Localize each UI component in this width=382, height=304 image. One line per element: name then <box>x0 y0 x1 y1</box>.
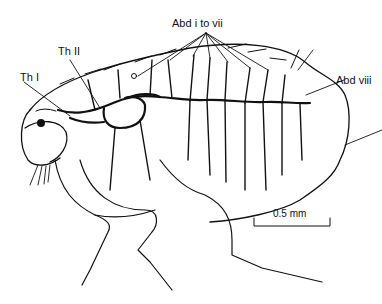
tracheal-branches <box>88 55 302 190</box>
legs <box>55 160 322 290</box>
body-outline <box>21 44 349 222</box>
scale-bar <box>254 218 330 226</box>
label-th2: Th II <box>58 46 80 57</box>
eye <box>37 119 45 127</box>
tracheal-trunk <box>58 94 310 128</box>
scale-bar-label: 0.5 mm <box>273 209 306 219</box>
spiracle <box>132 74 137 79</box>
antenna <box>36 109 56 111</box>
label-th1: Th I <box>20 72 39 83</box>
head-bristles <box>30 165 50 185</box>
label-abd-viii: Abd viii <box>336 75 371 86</box>
label-abd-i-to-vii: Abd i to vii <box>172 18 223 29</box>
